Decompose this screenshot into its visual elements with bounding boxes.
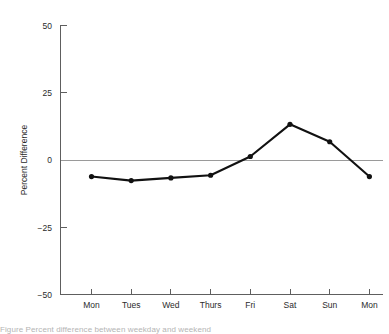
y-tick-label-50: 50 bbox=[43, 21, 53, 31]
y-tick-label-0: 0 bbox=[47, 155, 52, 165]
x-tick-label-1: Tues bbox=[122, 300, 141, 310]
x-tick-label-5: Sat bbox=[284, 300, 297, 310]
x-tick-label-3: Thurs bbox=[200, 300, 222, 310]
data-point-Sat-5 bbox=[287, 122, 292, 127]
x-tick-label-4: Fri bbox=[245, 300, 255, 310]
data-point-Mon-0 bbox=[89, 174, 94, 179]
y-axis-title: Percent Difference bbox=[19, 125, 29, 196]
x-tick-label-6: Sun bbox=[322, 300, 337, 310]
y-tick-label-minus-50: −50 bbox=[38, 290, 53, 300]
data-point-Tues-1 bbox=[129, 178, 134, 183]
y-tick-label-25: 25 bbox=[43, 88, 53, 98]
x-tick-label-2: Wed bbox=[162, 300, 180, 310]
figure-caption: Figure Percent difference between weekda… bbox=[0, 325, 389, 334]
y-tick-label-minus-25: −25 bbox=[38, 223, 53, 233]
series-markers-group bbox=[89, 122, 372, 183]
x-tick-label-7: Mon bbox=[361, 300, 378, 310]
data-point-Wed-2 bbox=[168, 175, 173, 180]
data-point-Fri-4 bbox=[248, 154, 253, 159]
series-line-percent-difference bbox=[92, 124, 370, 180]
data-point-Thurs-3 bbox=[208, 173, 213, 178]
data-point-Sun-6 bbox=[327, 139, 332, 144]
data-point-Mon-7 bbox=[367, 174, 372, 179]
x-tick-label-0: Mon bbox=[83, 300, 100, 310]
